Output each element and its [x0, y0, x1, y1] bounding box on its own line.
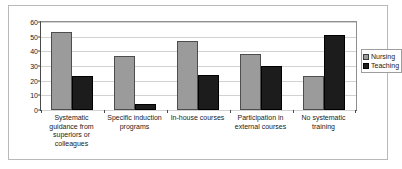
x-axis-tick-mark [355, 110, 356, 113]
bar-nursing[interactable] [177, 41, 198, 110]
bar-group [167, 22, 230, 110]
x-axis-category-label: Specific induction programs [103, 114, 166, 131]
bar-teaching[interactable] [135, 104, 156, 110]
bar-group [104, 22, 167, 110]
y-axis-tick-label: 50 [30, 33, 38, 40]
bar-group [293, 22, 356, 110]
bar-group [41, 22, 104, 110]
bar-nursing[interactable] [240, 54, 261, 110]
legend-item-teaching: Teaching [363, 61, 399, 70]
x-axis-category-label: Systematic guidance from superiors or co… [40, 114, 103, 148]
legend-swatch-teaching [363, 63, 369, 69]
chart-legend: Nursing Teaching [361, 49, 402, 73]
y-axis-tick-label: 0 [34, 107, 38, 114]
legend-label-nursing: Nursing [371, 52, 395, 61]
y-axis-tick-label: 30 [30, 63, 38, 70]
bar-teaching[interactable] [324, 35, 345, 110]
legend-label-teaching: Teaching [371, 61, 399, 70]
plot-area: 0102030405060 [40, 21, 357, 111]
x-axis-tick-mark [230, 110, 231, 113]
bar-nursing[interactable] [303, 76, 324, 110]
bar-teaching[interactable] [72, 76, 93, 110]
y-axis-tick-label: 60 [30, 19, 38, 26]
chart-frame: 0102030405060 Nursing Teaching Systemati… [8, 5, 388, 160]
bar-nursing[interactable] [51, 32, 72, 110]
bar-teaching[interactable] [198, 75, 219, 110]
gridline [41, 110, 356, 111]
x-axis-category-label: In-house courses [166, 114, 229, 123]
legend-item-nursing: Nursing [363, 52, 399, 61]
legend-swatch-nursing [363, 54, 369, 60]
x-axis-category-label: Participation in external courses [229, 114, 292, 131]
y-axis-tick-label: 10 [30, 92, 38, 99]
x-axis-tick-mark [293, 110, 294, 113]
x-axis-category-label: No systematic training [292, 114, 355, 131]
x-axis-tick-mark [104, 110, 105, 113]
x-axis-tick-mark [167, 110, 168, 113]
x-axis-tick-mark [41, 110, 42, 113]
bar-nursing[interactable] [114, 56, 135, 110]
bar-teaching[interactable] [261, 66, 282, 110]
bar-group [230, 22, 293, 110]
y-axis-tick-label: 40 [30, 48, 38, 55]
y-axis-tick-label: 20 [30, 77, 38, 84]
